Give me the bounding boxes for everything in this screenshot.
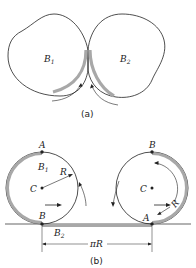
caption-b: (b)	[90, 256, 103, 266]
ground-label-b2: B2	[53, 228, 65, 239]
distance-label-pi-r: πR	[89, 239, 103, 249]
left-point-a	[40, 150, 43, 153]
part-b: A B C R B1 B A C R B2	[5, 140, 191, 266]
arrowhead-icon	[79, 83, 83, 87]
right-center-c	[151, 187, 154, 190]
arrowhead-icon	[68, 174, 73, 178]
left-rotation-arrow	[80, 184, 86, 206]
left-label-a: A	[38, 140, 46, 150]
right-inner-rotation-arrow	[155, 163, 178, 202]
right-label-b: B	[148, 140, 156, 150]
left-label-b: B	[38, 211, 46, 221]
arrowhead-icon	[42, 243, 46, 246]
right-point-a	[150, 222, 153, 225]
rolling-contact-diagram: B1 B2 (a) A B C R B1	[0, 0, 196, 268]
arrowhead-icon	[148, 243, 152, 246]
right-label-a: A	[142, 213, 150, 223]
label-b1: B1	[43, 54, 54, 65]
arrowhead-icon	[154, 161, 159, 165]
left-label-c: C	[30, 184, 37, 194]
arrowhead-icon	[79, 182, 83, 187]
label-b2: B2	[119, 54, 131, 65]
part-a: B1 B2 (a)	[8, 14, 165, 119]
left-point-b	[40, 222, 43, 225]
left-label-b1: B1	[37, 162, 48, 173]
arrowhead-icon	[111, 202, 115, 207]
arrowhead-icon	[57, 203, 62, 207]
right-label-c: C	[140, 184, 147, 194]
left-label-r: R	[59, 167, 67, 177]
ground-contact-strip	[42, 224, 152, 227]
caption-a: (a)	[81, 109, 94, 119]
arrowhead-icon	[157, 212, 162, 216]
right-point-b	[150, 150, 153, 153]
